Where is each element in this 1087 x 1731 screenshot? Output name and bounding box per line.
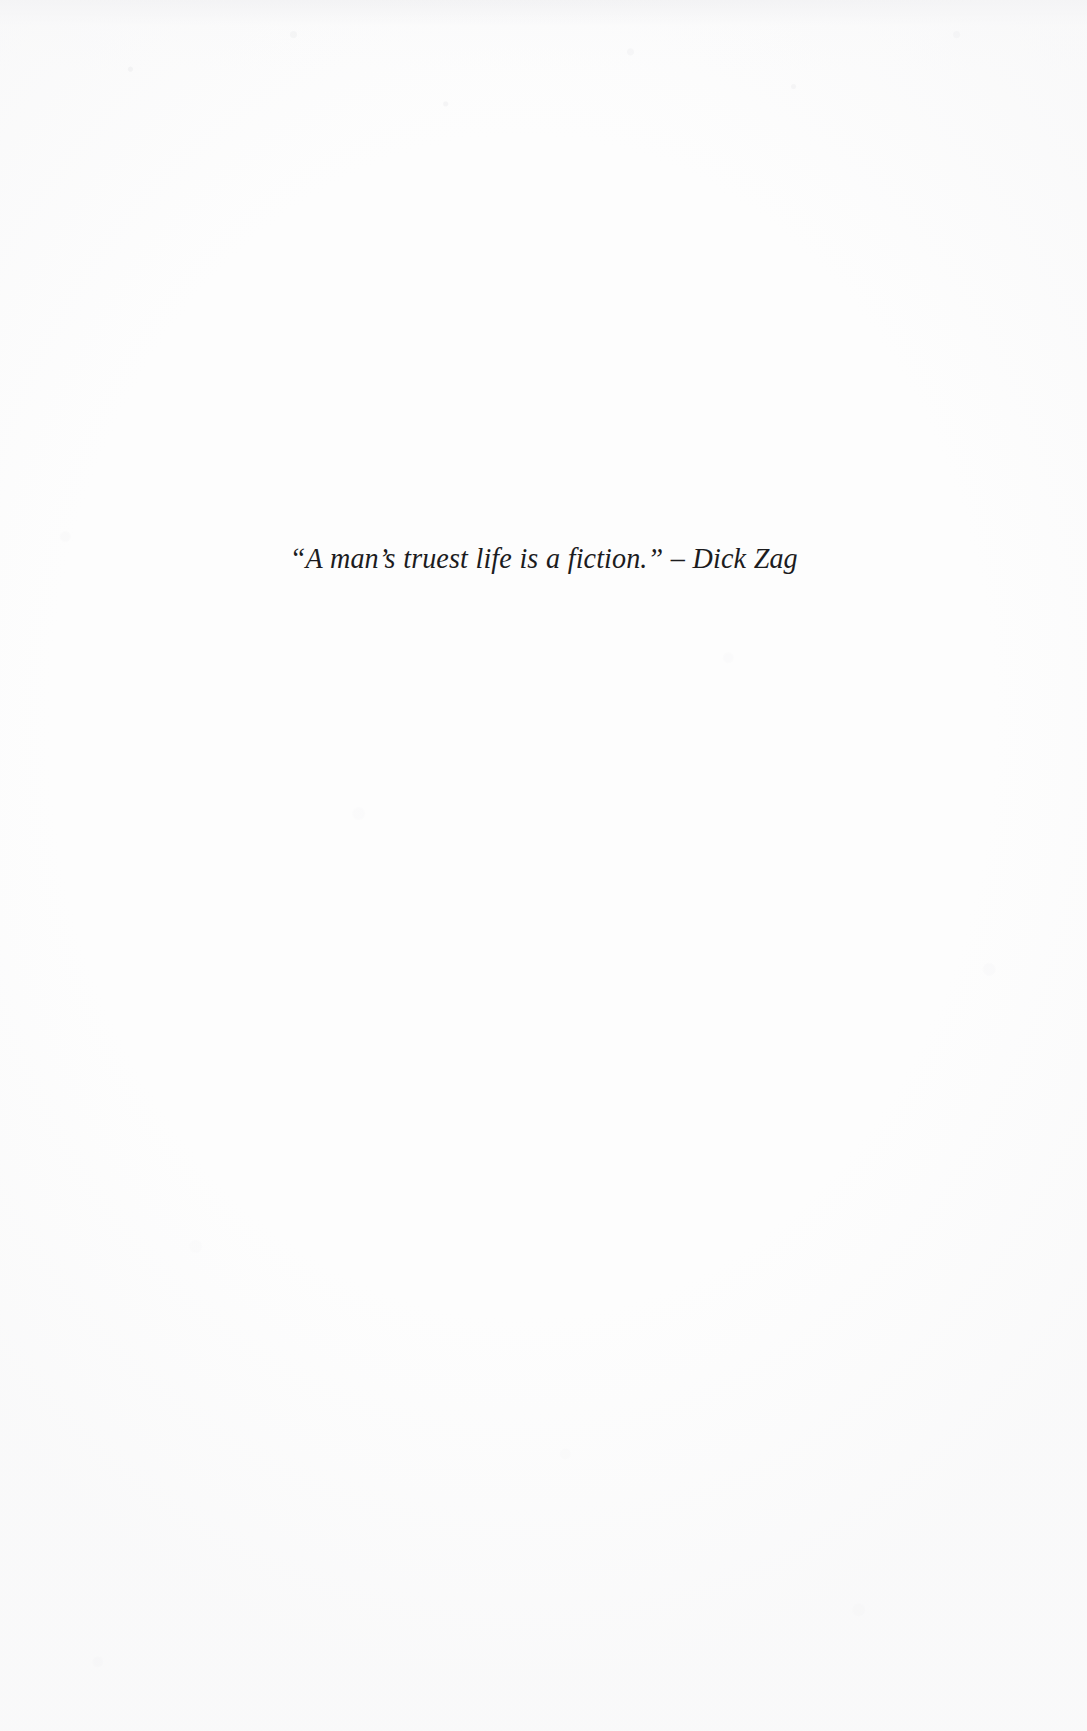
epigraph-block: “A man’s truest life is a fiction.” – Di…	[0, 536, 1087, 580]
paper-tone-overlay	[0, 0, 1087, 1731]
scanned-page: “A man’s truest life is a fiction.” – Di…	[0, 0, 1087, 1731]
epigraph-text: “A man’s truest life is a fiction.” – Di…	[290, 536, 798, 580]
paper-grain-texture	[0, 0, 1087, 1731]
